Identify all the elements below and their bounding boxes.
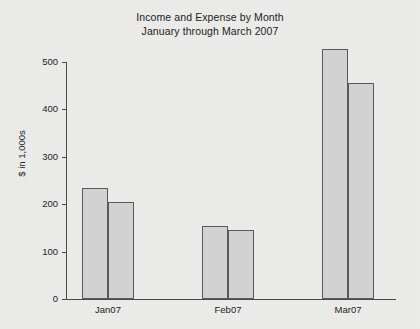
y-tick-label: 500 bbox=[2, 57, 58, 67]
bar-feb07-income bbox=[202, 226, 228, 299]
chart-title: Income and Expense by Month January thro… bbox=[0, 10, 420, 38]
y-tick-label: 200 bbox=[2, 199, 58, 209]
y-tick-label: 300 bbox=[2, 152, 58, 162]
x-tick-label: Feb07 bbox=[188, 304, 268, 315]
bar-jan07-expense bbox=[108, 202, 134, 299]
y-tick-label: 0 bbox=[2, 294, 58, 304]
x-tick-label: Jan07 bbox=[68, 304, 148, 315]
plot-area bbox=[66, 62, 396, 299]
x-tick-label: Mar07 bbox=[308, 304, 388, 315]
bar-mar07-expense bbox=[348, 83, 374, 299]
bar-chart: Income and Expense by Month January thro… bbox=[0, 0, 420, 329]
x-axis-line bbox=[66, 299, 396, 300]
y-axis-tick-labels: 0100200300400500 bbox=[0, 0, 58, 329]
bar-mar07-income bbox=[322, 49, 348, 299]
x-axis-tick-labels: Jan07Feb07Mar07 bbox=[0, 304, 420, 320]
y-tick-label: 100 bbox=[2, 247, 58, 257]
bar-feb07-expense bbox=[228, 230, 254, 299]
chart-subtitle-line-2: January through March 2007 bbox=[0, 24, 420, 38]
chart-title-line-1: Income and Expense by Month bbox=[0, 10, 420, 24]
bar-jan07-income bbox=[82, 188, 108, 299]
y-tick-label: 400 bbox=[2, 104, 58, 114]
